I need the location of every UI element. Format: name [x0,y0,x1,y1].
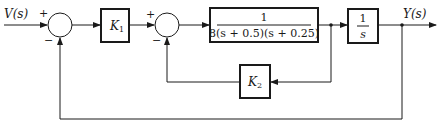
summing-junction-1: + − [39,7,72,47]
minus-sign: − [44,34,53,47]
block-diagram: V(s) + − K1 + − 1 8(s + 0.5)(s + 0.25) 1 [0,0,445,123]
gain-block-k1: K1 [101,9,129,42]
k2-subscript: 2 [257,81,262,90]
arrow-k2-sum2 [167,38,240,82]
plant-block: 1 8(s + 0.5)(s + 0.25) [209,8,319,42]
integrator-numerator: 1 [360,12,367,25]
output-label: Y(s) [403,7,427,21]
integrator-block: 1 s [348,9,378,43]
plant-numerator: 1 [261,11,268,24]
minus-sign: − [152,34,161,47]
input-label: V(s) [4,7,29,21]
summing-junction-2: + − [146,8,179,47]
plus-sign: + [146,8,155,21]
k1-subscript: 1 [119,25,124,34]
plant-denominator: 8(s + 0.5)(s + 0.25) [209,27,319,40]
integrator-denominator: s [360,28,366,41]
plus-sign: + [39,7,48,20]
